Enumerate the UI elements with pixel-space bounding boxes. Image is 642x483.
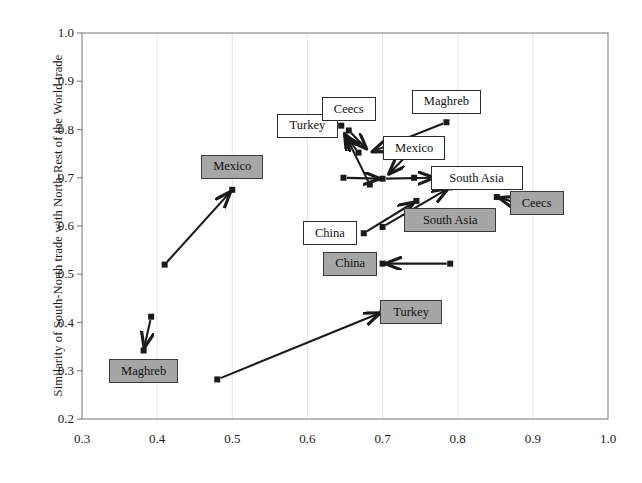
data-point-ceecs-gray-end xyxy=(494,194,500,200)
box-gray-china: China xyxy=(323,252,377,276)
data-point-china-start xyxy=(447,261,453,267)
gray-box-label-text: South Asia xyxy=(423,214,478,227)
y-tick-label-0.3: 0.3 xyxy=(40,363,74,379)
scatter-plot-figure: Similarity of South-North trade with Nor… xyxy=(0,0,642,483)
box-gray-turkey: Turkey xyxy=(380,300,442,324)
data-point-cluster-b xyxy=(367,182,373,188)
x-tick-label-0.8: 0.8 xyxy=(438,431,478,447)
tick-marks xyxy=(77,33,82,419)
white-box-label-text: Turkey xyxy=(290,119,326,132)
box-gray-mexico: Mexico xyxy=(201,155,263,179)
x-tick-label-0.9: 0.9 xyxy=(513,431,553,447)
data-point-maghreb-start xyxy=(148,314,154,320)
data-point-turkey-white xyxy=(338,123,344,129)
y-tick-label-0.7: 0.7 xyxy=(40,170,74,186)
arrow-hub-southasia xyxy=(386,178,433,179)
gray-box-label-text: China xyxy=(335,257,365,270)
x-tick-label-0.6: 0.6 xyxy=(287,431,327,447)
y-tick-label-0.6: 0.6 xyxy=(40,218,74,234)
box-white-china: China xyxy=(303,221,357,245)
box-gray-southasia: South Asia xyxy=(404,208,496,232)
y-tick-label-0.5: 0.5 xyxy=(40,266,74,282)
y-tick-label-1.0: 1.0 xyxy=(40,25,74,41)
arrow-to-maghreb-gray xyxy=(144,320,150,347)
x-tick-label-1.0: 1.0 xyxy=(588,431,628,447)
y-tick-label-0.9: 0.9 xyxy=(40,73,74,89)
white-box-label-text: South Asia xyxy=(449,172,504,185)
x-tick-label-0.7: 0.7 xyxy=(363,431,403,447)
box-white-ceecs: Ceecs xyxy=(322,97,376,121)
box-gray-ceecs: Ceecs xyxy=(510,191,564,215)
gray-box-label-text: Maghreb xyxy=(121,365,166,378)
data-point-ceecs-white xyxy=(346,127,352,133)
white-box-label-text: Mexico xyxy=(395,142,433,155)
data-point-china-white-end xyxy=(413,198,419,204)
white-box-label-text: Ceecs xyxy=(334,103,364,116)
data-point-china-white-start xyxy=(361,230,367,236)
data-point-china-end xyxy=(380,261,386,267)
arrow-clustera-hub xyxy=(347,178,379,179)
data-point-cluster-c xyxy=(411,175,417,181)
gray-box-label-text: Mexico xyxy=(213,160,251,173)
data-point-mexico-start xyxy=(162,262,168,268)
data-point-turkey-start xyxy=(214,376,220,382)
data-point-ceecs-white-low xyxy=(356,150,362,156)
box-white-southasia: South Asia xyxy=(431,166,523,190)
arrow-clusterb-turkey xyxy=(345,135,368,182)
data-point-southasia-start xyxy=(380,224,386,230)
gray-box-label-text: Turkey xyxy=(393,306,429,319)
data-point-maghreb-white xyxy=(443,119,449,125)
y-tick-label-0.4: 0.4 xyxy=(40,315,74,331)
data-point-cluster-a xyxy=(340,175,346,181)
y-tick-label-0.8: 0.8 xyxy=(40,122,74,138)
data-point-maghreb-end xyxy=(141,347,147,353)
x-tick-label-0.4: 0.4 xyxy=(137,431,177,447)
data-point-mexico-end xyxy=(229,187,235,193)
gray-box-label-text: Ceecs xyxy=(522,197,552,210)
box-gray-maghreb: Maghreb xyxy=(109,359,178,383)
box-white-mexico: Mexico xyxy=(383,136,445,160)
white-box-label-text: Maghreb xyxy=(424,95,469,108)
y-tick-label-0.2: 0.2 xyxy=(40,411,74,427)
arrow-to-turkey-gray xyxy=(220,313,379,378)
white-box-label-text: China xyxy=(315,227,345,240)
box-white-maghreb: Maghreb xyxy=(412,90,481,114)
x-tick-label-0.3: 0.3 xyxy=(62,431,102,447)
data-point-cluster-d xyxy=(380,176,386,182)
x-tick-label-0.5: 0.5 xyxy=(212,431,252,447)
arrow-to-mexico-gray xyxy=(167,192,230,262)
